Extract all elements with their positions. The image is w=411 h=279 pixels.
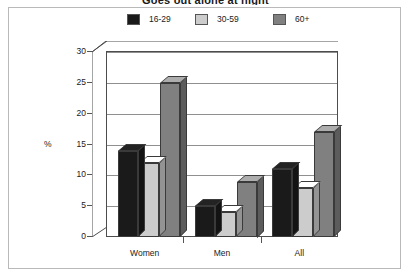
x-tick-label-Men: Men (214, 248, 231, 258)
legend-swatch-60plus (273, 14, 286, 25)
bar-side-face (138, 144, 145, 237)
plot-area: 051015202530% WomenMenAll (56, 41, 356, 261)
bar-16-29-Women (118, 151, 138, 237)
chart-legend: 16-29 30-59 60+ (9, 12, 402, 28)
legend-item-30-59: 30-59 (195, 12, 239, 26)
x-tick-label-All: All (295, 248, 304, 258)
bar-16-29-All (272, 169, 292, 237)
y-tick-label: 10 (77, 170, 86, 179)
y-tick-label: 20 (77, 108, 86, 117)
legend-label-30-59: 30-59 (217, 14, 239, 25)
y-tick-label: 15 (77, 139, 86, 148)
bar-front-face (272, 169, 292, 237)
legend-swatch-16-29 (127, 14, 140, 25)
bar-front-face (195, 206, 215, 237)
y-axis-label: % (44, 139, 52, 149)
x-tick-mark (183, 237, 184, 243)
y-tick-label: 25 (77, 77, 86, 86)
legend-label-16-29: 16-29 (149, 14, 171, 25)
legend-label-60plus: 60+ (295, 14, 309, 25)
bar-16-29-Men (195, 206, 215, 237)
x-tick-label-Women: Women (130, 248, 159, 258)
legend-swatch-30-59 (195, 14, 208, 25)
bar-side-face (334, 125, 341, 237)
legend-item-16-29: 16-29 (127, 12, 171, 26)
plot-panel (92, 41, 338, 237)
y-tick-label: 30 (77, 47, 86, 56)
chart-figure: Goes out alone at night 16-29 30-59 60+ … (0, 0, 411, 279)
bar-side-face (159, 156, 166, 237)
y-axis: 051015202530% (56, 41, 92, 261)
bar-side-face (313, 181, 320, 237)
bar-side-face (180, 76, 187, 237)
legend-item-60plus: 60+ (273, 12, 309, 26)
y-tick-label: 0 (81, 232, 86, 241)
y-tick-label: 5 (81, 201, 86, 210)
x-tick-mark (261, 237, 262, 243)
bar-side-face (292, 162, 299, 237)
bar-series-container (106, 51, 338, 237)
bar-side-face (257, 175, 264, 238)
panel-left-edge (92, 41, 107, 237)
chart-frame: 16-29 30-59 60+ 051015202530% (8, 7, 401, 269)
chart-title: Goes out alone at night (0, 0, 411, 5)
bar-front-face (118, 151, 138, 237)
x-axis: WomenMenAll (92, 237, 338, 261)
